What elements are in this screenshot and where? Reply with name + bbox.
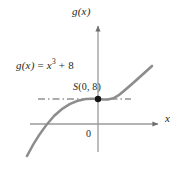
equation-function-name: g(x) — [16, 59, 35, 71]
y-axis-label: g(x) — [72, 6, 91, 17]
cubic-curve — [27, 66, 152, 156]
point-label-s: S(0, 8) — [73, 82, 101, 92]
origin-label: 0 — [86, 129, 91, 139]
function-equation-label: g(x) = x3 + 8 — [16, 60, 74, 71]
graph-figure: g(x) x 0 g(x) = x3 + 8 S(0, 8) — [0, 0, 184, 169]
equation-constant: 8 — [68, 59, 74, 71]
x-axis-label: x — [165, 113, 170, 124]
point-marker-s — [95, 96, 101, 102]
point-coordinates: (0, 8) — [78, 81, 101, 92]
